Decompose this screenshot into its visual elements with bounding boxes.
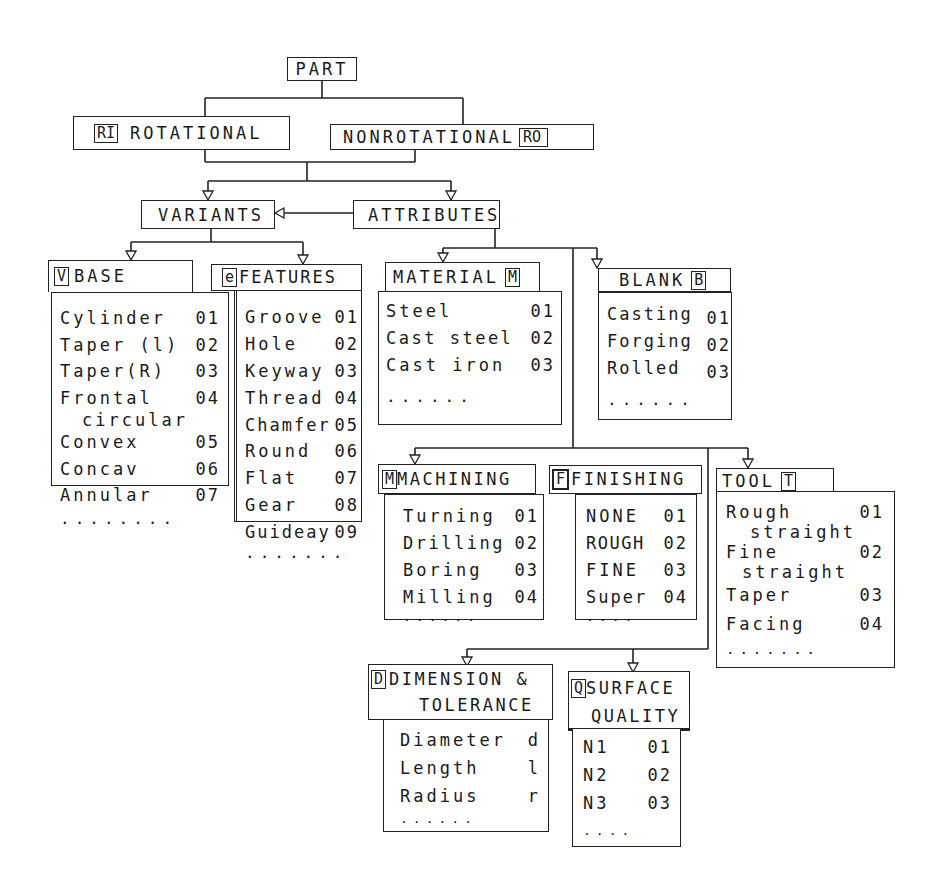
blank-header: BLANK B	[598, 268, 731, 294]
attributes-node: ATTRIBUTES	[353, 200, 500, 229]
dimension-header: D DIMENSION & TOLERANCE	[368, 664, 553, 720]
part-node: PART	[287, 57, 357, 81]
surface-code-tag: Q	[571, 679, 586, 698]
list-item: Cylinder01	[60, 304, 220, 333]
list-item: Boring03	[403, 557, 539, 584]
list-item: Concav06	[60, 456, 220, 482]
list-item: Gear08	[245, 492, 359, 519]
list-item: Fine02	[726, 540, 884, 564]
tool-list: Rough01 straight Fine02 straight Taper03…	[716, 491, 895, 668]
dimension-code-tag: D	[371, 670, 386, 689]
list-item-sub: straight	[726, 564, 884, 580]
variants-node: VARIANTS	[141, 200, 275, 229]
list-item: Groove01	[245, 304, 359, 331]
features-header: e FEATURES	[211, 264, 362, 291]
more-ellipsis: ....	[583, 817, 672, 845]
list-item: Convex05	[60, 429, 220, 456]
more-ellipsis: ......	[386, 379, 555, 415]
base-code-tag: V	[54, 267, 69, 286]
finishing-header: F FINISHING	[549, 465, 702, 494]
finishing-list: NONE01 ROUGH02 FINE03 Super04 ....	[575, 494, 697, 620]
surface-list: N101 N202 N303 ....	[572, 729, 681, 847]
tool-code-tag: T	[781, 472, 796, 491]
list-item: Taper(R)03	[60, 358, 220, 385]
list-item: Round06	[245, 438, 359, 465]
base-header: V BASE	[48, 260, 193, 292]
nonrotational-node: NONROTATIONAL RO	[330, 124, 594, 150]
list-item: Radiusr	[400, 782, 540, 810]
list-item: FINE03	[586, 557, 688, 584]
list-item: ROUGH02	[586, 530, 688, 557]
dimension-label-line2: TOLERANCE	[369, 690, 552, 716]
list-item: Taper03	[726, 580, 884, 610]
list-item: Thread04	[245, 385, 359, 412]
list-item: Keyway03	[245, 358, 359, 385]
list-item: Rough01	[726, 500, 884, 524]
list-item: Casting01	[607, 301, 731, 328]
surface-label-line2: QUALITY	[569, 699, 689, 727]
list-item: Forging02	[607, 328, 731, 355]
part-label: PART	[288, 58, 356, 80]
finishing-code-tag: F	[552, 469, 569, 490]
surface-label-line1: SURFACE	[586, 677, 675, 699]
machining-label: MACHINING	[397, 468, 512, 490]
attributes-label: ATTRIBUTES	[354, 201, 499, 226]
list-item: Facing04	[726, 610, 884, 638]
features-label: FEATURES	[239, 266, 337, 288]
tool-label: TOOL	[722, 470, 775, 492]
variants-label: VARIANTS	[142, 201, 274, 226]
list-item: Frontal04	[60, 385, 220, 411]
list-item: N303	[583, 789, 672, 817]
list-item: Rolled03	[607, 355, 731, 382]
blank-list: Casting01 Forging02 Rolled03 ......	[598, 292, 732, 420]
machining-list: Turning01 Drilling02 Boring03 Milling04 …	[384, 494, 544, 620]
more-ellipsis: ........	[60, 508, 220, 530]
finishing-label: FINISHING	[571, 468, 686, 490]
more-ellipsis: ......	[400, 810, 540, 828]
list-item: Turning01	[403, 503, 539, 530]
material-list: Steel01 Cast steel02 Cast iron03 ......	[378, 291, 562, 425]
list-item: Flat07	[245, 465, 359, 492]
machining-header: M MACHINING	[378, 464, 536, 494]
list-item: Milling04	[403, 584, 539, 611]
list-item: Lengthl	[400, 754, 540, 782]
nonrotational-code-tag: RO	[519, 128, 548, 147]
features-code-tag: e	[222, 268, 237, 287]
base-label: BASE	[74, 265, 127, 287]
more-ellipsis: ......	[403, 611, 539, 623]
list-item: Cast steel02	[386, 325, 555, 352]
material-label: MATERIAL	[393, 266, 499, 288]
list-item: Steel01	[386, 298, 555, 325]
list-item: Drilling02	[403, 530, 539, 557]
dimension-list: Diameterd Lengthl Radiusr ......	[383, 720, 549, 832]
base-list: Cylinder01 Taper (l)02 Taper(R)03 Fronta…	[51, 292, 229, 486]
list-item: Chamfer05	[245, 412, 359, 438]
machining-code-tag: M	[382, 470, 397, 489]
list-item-sub: straight	[726, 524, 884, 540]
list-item: N101	[583, 733, 672, 761]
nonrotational-label: NONROTATIONAL	[343, 126, 515, 148]
surface-header: Q SURFACE QUALITY	[568, 671, 690, 731]
list-item-sub: circular	[60, 411, 220, 429]
blank-code-tag: B	[691, 271, 706, 290]
blank-label: BLANK	[619, 269, 685, 291]
more-ellipsis: ....	[586, 611, 688, 623]
list-item: Guideay09	[245, 519, 359, 546]
rotational-node: RI ROTATIONAL	[73, 116, 290, 150]
list-item: N202	[583, 761, 672, 789]
more-ellipsis: .......	[245, 546, 359, 560]
list-item: NONE01	[586, 503, 688, 530]
list-item: Hole02	[245, 331, 359, 358]
list-item: Annular07	[60, 482, 220, 508]
list-item: Cast iron03	[386, 352, 555, 379]
features-list: Groove01 Hole02 Keyway03 Thread04 Chamfe…	[234, 290, 362, 522]
rotational-label: ROTATIONAL	[130, 122, 262, 144]
material-code-tag: M	[505, 268, 520, 287]
more-ellipsis: ......	[607, 382, 731, 418]
list-item: Diameterd	[400, 726, 540, 754]
list-item: Taper (l)02	[60, 333, 220, 358]
material-header: MATERIAL M	[385, 262, 540, 292]
dimension-label-line1: DIMENSION &	[389, 668, 529, 690]
list-item: Super04	[586, 584, 688, 611]
rotational-code-tag: RI	[94, 124, 118, 143]
